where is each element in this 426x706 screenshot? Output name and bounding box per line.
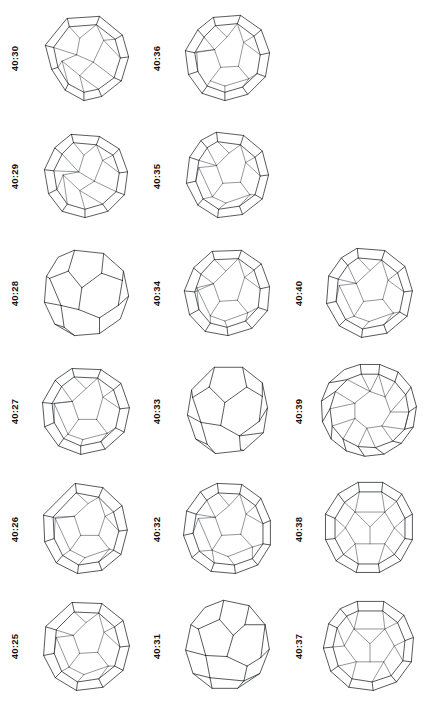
polyhedron-figure	[172, 588, 284, 706]
figure-cell: 40:30	[0, 0, 142, 118]
figure-label: 40:30	[10, 46, 21, 71]
figure-cell: 40:35	[142, 118, 284, 236]
figure-caption: 40:38	[284, 470, 314, 588]
figure-cell: 40:36	[142, 0, 284, 118]
polyhedron-figure	[30, 353, 142, 471]
plate-column-left: 40:30 40:29	[0, 0, 142, 706]
figure-cell: 40:27	[0, 353, 142, 471]
figure-label: 40:29	[10, 164, 21, 189]
figure-caption: 40:31	[142, 588, 172, 706]
polyhedron-40-40-drawing	[317, 241, 423, 347]
polyhedron-40-26-drawing	[33, 476, 139, 582]
polyhedron-figure	[30, 118, 142, 236]
figure-caption: 40:32	[142, 470, 172, 588]
figure-cell: 40:29	[0, 118, 142, 236]
polyhedra-plate: 40:30 40:29	[0, 0, 426, 706]
figure-caption: 40:34	[142, 235, 172, 353]
figure-label: 40:33	[152, 399, 163, 424]
polyhedron-figure	[30, 0, 142, 118]
figure-label: 40:35	[152, 164, 163, 189]
plate-column-middle: 40:36 40:35	[142, 0, 284, 706]
figure-cell: 40:26	[0, 470, 142, 588]
figure-caption: 40:27	[0, 353, 30, 471]
figure-label: 40:27	[10, 399, 21, 424]
figure-caption: 40:26	[0, 470, 30, 588]
polyhedron-figure	[172, 470, 284, 588]
figure-caption: 40:29	[0, 118, 30, 236]
polyhedron-40-28-drawing	[34, 242, 138, 346]
polyhedron-40-35-drawing	[176, 124, 280, 228]
figure-cell: 40:33	[142, 353, 284, 471]
figure-caption: 40:39	[284, 353, 314, 471]
polyhedron-figure	[314, 470, 426, 588]
polyhedron-figure	[172, 353, 284, 471]
polyhedron-40-34-drawing	[176, 242, 280, 346]
figure-label: 40:25	[10, 634, 21, 659]
figure-label: 40:37	[294, 634, 305, 659]
figure-caption: 40:33	[142, 353, 172, 471]
polyhedron-40-29-drawing	[34, 124, 138, 228]
figure-cell: 40:25	[0, 588, 142, 706]
figure-cell: 40:37	[284, 588, 426, 706]
polyhedron-40-38-drawing	[317, 476, 423, 582]
figure-label: 40:34	[152, 281, 163, 306]
polyhedron-40-32-drawing	[175, 476, 281, 582]
figure-label: 40:39	[294, 399, 305, 424]
polyhedron-figure	[30, 235, 142, 353]
figure-cell: 40:28	[0, 235, 142, 353]
polyhedron-figure	[30, 588, 142, 706]
figure-cell: 40:32	[142, 470, 284, 588]
polyhedron-40-27-drawing	[33, 359, 139, 465]
figure-label: 40:31	[152, 634, 163, 659]
polyhedron-figure	[172, 118, 284, 236]
figure-caption: 40:25	[0, 588, 30, 706]
figure-caption: 40:40	[284, 235, 314, 353]
figure-label: 40:38	[294, 517, 305, 542]
figure-cell: 40:34	[142, 235, 284, 353]
polyhedron-figure	[314, 353, 426, 471]
polyhedron-40-39-drawing	[316, 358, 424, 466]
figure-label: 40:36	[152, 46, 163, 71]
figure-cell: 40:39	[284, 353, 426, 471]
figure-caption: 40:28	[0, 235, 30, 353]
polyhedron-figure	[30, 470, 142, 588]
figure-caption: 40:37	[284, 588, 314, 706]
polyhedron-40-31-drawing	[175, 594, 281, 700]
figure-caption: 40:36	[142, 0, 172, 118]
figure-caption: 40:30	[0, 0, 30, 118]
plate-column-right: 40:40 40:39	[284, 0, 426, 706]
polyhedron-40-37-drawing	[317, 594, 423, 700]
polyhedron-figure	[314, 235, 426, 353]
figure-label: 40:26	[10, 517, 21, 542]
polyhedron-40-25-drawing	[33, 594, 139, 700]
polyhedron-figure	[172, 0, 284, 118]
figure-label: 40:28	[10, 281, 21, 306]
polyhedron-40-33-drawing	[176, 360, 280, 464]
figure-label: 40:40	[294, 281, 305, 306]
polyhedron-figure	[172, 235, 284, 353]
figure-cell: 40:38	[284, 470, 426, 588]
figure-label: 40:32	[152, 517, 163, 542]
polyhedron-figure	[314, 588, 426, 706]
polyhedron-40-30-drawing	[34, 7, 138, 111]
figure-cell: 40:40	[284, 235, 426, 353]
figure-cell: 40:31	[142, 588, 284, 706]
polyhedron-40-36-drawing	[176, 7, 280, 111]
figure-caption: 40:35	[142, 118, 172, 236]
